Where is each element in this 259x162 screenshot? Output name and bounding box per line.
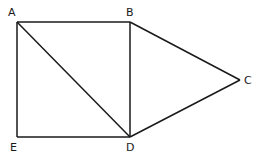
point-label-e: E — [10, 141, 17, 154]
point-label-a: A — [8, 6, 16, 19]
segment-ad — [17, 22, 130, 137]
segment-cd — [130, 80, 240, 137]
point-label-b: B — [126, 6, 134, 19]
segments — [17, 22, 240, 137]
segment-bc — [130, 22, 240, 80]
point-label-d: D — [126, 141, 134, 154]
geometry-diagram: ABCDE — [0, 0, 259, 162]
point-label-c: C — [244, 74, 252, 87]
